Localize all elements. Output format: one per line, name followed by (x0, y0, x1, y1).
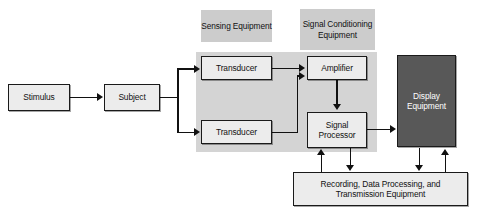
block-display-equipment-label: Display Equipment (398, 91, 455, 112)
block-transducer-bottom-label: Transducer (214, 127, 259, 137)
arrowhead-transducer-bottom-to-amplifier (299, 72, 305, 80)
arrowhead-amplifier-to-signal-processor (333, 104, 341, 110)
connector-recording-to-signal-processor (321, 155, 323, 173)
block-recording-equipment[interactable]: Recording, Data Processing, and Transmis… (293, 172, 468, 206)
arrowhead-recording-to-display (441, 149, 449, 155)
block-stimulus[interactable]: Stimulus (8, 84, 70, 111)
block-recording-equipment-label: Recording, Data Processing, and Transmis… (294, 179, 467, 200)
connector-recording-to-display (445, 155, 447, 173)
arrowhead-branch-to-transducer-bottom (194, 128, 200, 136)
block-stimulus-label: Stimulus (21, 92, 56, 102)
connector-transducer-bottom-out (272, 132, 298, 134)
arrowhead-stimulus-to-subject (97, 93, 103, 101)
block-subject-label: Subject (116, 92, 147, 102)
arrowhead-signal-processor-to-display (390, 125, 396, 133)
block-display-equipment[interactable]: Display Equipment (397, 55, 456, 147)
arrowhead-display-to-recording (415, 165, 423, 171)
connector-branch-to-transducer-bottom (177, 132, 195, 134)
connector-signal-processor-to-display (367, 129, 391, 131)
connector-branch-vertical (177, 68, 179, 133)
connector-subject-to-branch (160, 97, 179, 99)
block-transducer-top[interactable]: Transducer (201, 56, 272, 80)
arrowhead-recording-to-signal-processor (317, 149, 325, 155)
block-transducer-bottom[interactable]: Transducer (201, 120, 272, 144)
arrowhead-branch-to-transducer-top (194, 65, 200, 73)
block-amplifier-label: Amplifier (319, 63, 355, 73)
block-amplifier[interactable]: Amplifier (307, 56, 367, 80)
arrowhead-signal-processor-to-recording (346, 165, 354, 171)
group-label-signal-conditioning-equipment: Signal Conditioning Equipment (300, 9, 375, 50)
block-signal-processor-label: Signal Processor (308, 120, 366, 141)
diagram-canvas: Sensing Equipment Signal Conditioning Eq… (0, 0, 477, 215)
connector-signal-processor-to-recording (350, 148, 352, 166)
block-subject[interactable]: Subject (104, 84, 160, 111)
block-signal-processor[interactable]: Signal Processor (307, 112, 367, 148)
connector-transducer-top-to-amplifier (272, 68, 300, 70)
connector-display-to-recording (419, 148, 421, 166)
connector-branch-to-transducer-top (177, 68, 195, 70)
connector-amplifier-to-signal-processor (336, 80, 338, 105)
connector-stimulus-to-subject (70, 97, 98, 99)
group-label-sensing-equipment: Sensing Equipment (201, 10, 272, 42)
connector-transducer-bottom-riser (297, 75, 299, 133)
block-transducer-top-label: Transducer (214, 63, 259, 73)
